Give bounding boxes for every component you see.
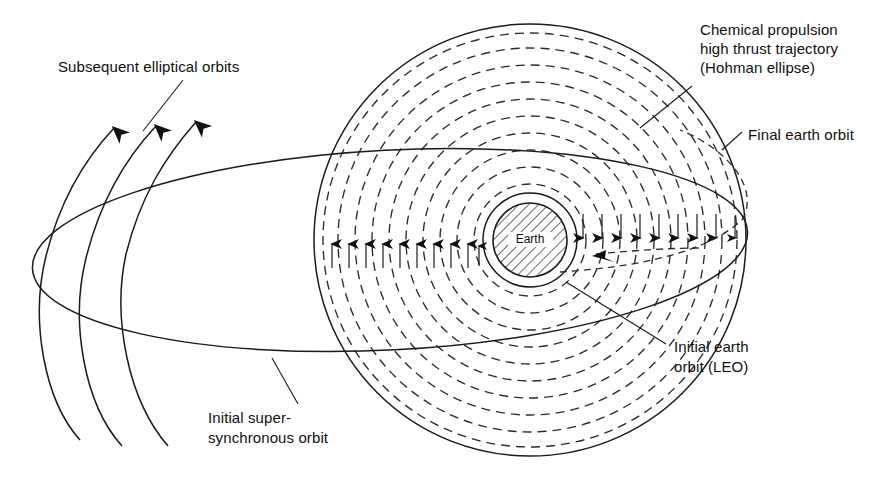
annotation-final-earth-orbit: Final earth orbit	[722, 126, 855, 150]
earth-body: Earth	[493, 203, 567, 277]
annotation-subsequent-elliptical-orbits: Subsequent elliptical orbits	[58, 58, 239, 131]
orbit-diagram-canvas: Earth	[0, 0, 884, 480]
annotation-initial-super-synchronous-orbit: Initial super- synchronous orbit	[208, 358, 329, 446]
initial-earth-orbit-label-line1: Initial earth	[674, 338, 749, 355]
chemical-propulsion-label-line3: (Hohman ellipse)	[700, 59, 815, 76]
hohman-transfer-ellipse	[560, 130, 747, 272]
subsequent-elliptical-orbit-arcs	[39, 122, 196, 446]
earth-label: Earth	[516, 232, 545, 246]
subsequent-elliptical-orbits-label: Subsequent elliptical orbits	[58, 58, 239, 75]
orbit-transfer-diagram: Earth	[0, 0, 884, 480]
annotation-initial-earth-orbit-leo: Initial earth orbit (LEO)	[566, 282, 749, 375]
initial-super-synchronous-label-line1: Initial super-	[208, 409, 291, 426]
chemical-propulsion-label-line1: Chemical propulsion	[700, 21, 838, 38]
chemical-propulsion-label-line2: high thrust trajectory	[700, 40, 838, 57]
initial-earth-orbit-label-line2: orbit (LEO)	[674, 358, 748, 375]
flow-arrows-left	[332, 244, 479, 268]
initial-super-synchronous-label-line2: synchronous orbit	[208, 429, 329, 446]
final-earth-orbit-label: Final earth orbit	[748, 126, 855, 143]
flow-arrows-right	[583, 214, 735, 238]
